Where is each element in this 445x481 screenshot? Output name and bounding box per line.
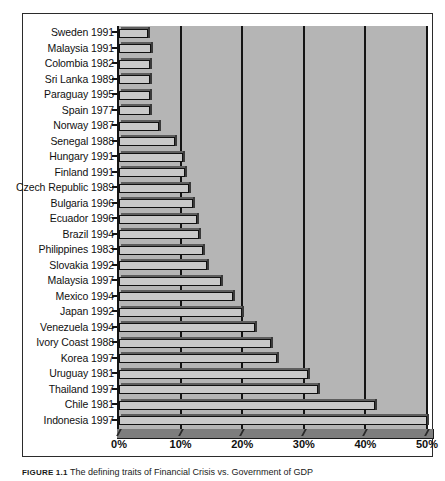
bar-side-face bbox=[151, 42, 153, 53]
bar bbox=[119, 122, 159, 131]
bar-side-face bbox=[203, 244, 205, 255]
bar-side-face bbox=[150, 89, 152, 100]
x-axis-tick-label: 20% bbox=[231, 438, 253, 450]
bar bbox=[119, 277, 221, 286]
category-label: Sri Lanka 1989 bbox=[0, 73, 114, 86]
bar-side-face bbox=[375, 399, 377, 410]
y-axis-tick bbox=[112, 248, 117, 250]
bar bbox=[119, 339, 271, 348]
bar-row: Ecuador 1996 bbox=[23, 212, 434, 226]
bar-row: Slovakia 1992 bbox=[23, 259, 434, 273]
x-axis-tick-label: 40% bbox=[354, 438, 376, 450]
bar-chart: Sweden 1991Malaysia 1991Colombia 1982Sri… bbox=[23, 14, 434, 458]
figure-caption-text: The defining traits of Financial Crisis … bbox=[70, 467, 313, 477]
bar-side-face bbox=[185, 166, 187, 177]
bar-side-face bbox=[207, 259, 209, 270]
category-label: Mexico 1994 bbox=[0, 290, 114, 303]
bar-row: Thailand 1997 bbox=[23, 383, 434, 397]
bar-row: Brazil 1994 bbox=[23, 228, 434, 242]
bar-front-face bbox=[119, 91, 150, 100]
y-axis-tick bbox=[112, 388, 117, 390]
bar bbox=[119, 91, 150, 100]
y-axis-tick bbox=[112, 419, 117, 421]
bar bbox=[119, 60, 150, 69]
bar-row: Sri Lanka 1989 bbox=[23, 73, 434, 87]
bar-row: Chile 1981 bbox=[23, 398, 434, 412]
category-label: Thailand 1997 bbox=[0, 383, 114, 396]
y-axis-tick bbox=[112, 78, 117, 80]
category-label: Malaysia 1997 bbox=[0, 274, 114, 287]
bar-front-face bbox=[119, 292, 233, 301]
bar bbox=[119, 137, 175, 146]
bar-row: Bulgaria 1996 bbox=[23, 197, 434, 211]
figure-caption: FIGURE 1.1 The defining traits of Financ… bbox=[22, 466, 437, 479]
bar-front-face bbox=[119, 29, 148, 38]
y-axis-tick bbox=[112, 186, 117, 188]
category-label: Malaysia 1991 bbox=[0, 42, 114, 55]
y-axis-tick bbox=[112, 124, 117, 126]
bar-front-face bbox=[119, 308, 242, 317]
bar-front-face bbox=[119, 230, 199, 239]
x-axis-tick-labels: 0%10%20%30%40%50% bbox=[23, 438, 434, 456]
bar-front-face bbox=[119, 168, 185, 177]
category-label: Hungary 1991 bbox=[0, 150, 114, 163]
figure-caption-id: FIGURE 1.1 bbox=[22, 468, 68, 477]
bar-row: Colombia 1982 bbox=[23, 57, 434, 71]
bar bbox=[119, 323, 255, 332]
bar-side-face bbox=[308, 368, 310, 379]
category-label: Spain 1977 bbox=[0, 104, 114, 117]
x-axis-tick-label: 0% bbox=[111, 438, 127, 450]
bar-front-face bbox=[119, 323, 255, 332]
bar-side-face bbox=[189, 182, 191, 193]
bar-front-face bbox=[119, 184, 189, 193]
bar-side-face bbox=[277, 352, 279, 363]
bar-row: Indonesia 1997 bbox=[23, 414, 434, 428]
bar bbox=[119, 354, 277, 363]
bar-side-face bbox=[175, 135, 177, 146]
bar-rows: Sweden 1991Malaysia 1991Colombia 1982Sri… bbox=[23, 26, 434, 429]
bar-row: Korea 1997 bbox=[23, 352, 434, 366]
bar-front-face bbox=[119, 75, 150, 84]
bar-front-face bbox=[119, 215, 197, 224]
bar-front-face bbox=[119, 153, 183, 162]
bar-front-face bbox=[119, 354, 277, 363]
bar bbox=[119, 106, 150, 115]
category-label: Indonesia 1997 bbox=[0, 414, 114, 427]
bar-side-face bbox=[318, 383, 320, 394]
bar-front-face bbox=[119, 261, 207, 270]
bar-side-face bbox=[242, 306, 244, 317]
y-axis-tick bbox=[112, 62, 117, 64]
y-axis-tick bbox=[112, 357, 117, 359]
bar bbox=[119, 385, 318, 394]
y-axis-tick bbox=[112, 47, 117, 49]
category-label: Slovakia 1992 bbox=[0, 259, 114, 272]
category-label: Venezuela 1994 bbox=[0, 321, 114, 334]
bar-row: Spain 1977 bbox=[23, 104, 434, 118]
bar-row: Ivory Coast 1988 bbox=[23, 336, 434, 350]
category-label: Ecuador 1996 bbox=[0, 212, 114, 225]
bar-front-face bbox=[119, 106, 150, 115]
bar-side-face bbox=[150, 58, 152, 69]
y-axis-tick bbox=[112, 295, 117, 297]
bar bbox=[119, 370, 308, 379]
bar bbox=[119, 75, 150, 84]
category-label: Philippines 1983 bbox=[0, 243, 114, 256]
y-axis-tick bbox=[112, 93, 117, 95]
bar bbox=[119, 261, 207, 270]
bar-row: Hungary 1991 bbox=[23, 150, 434, 164]
bar bbox=[119, 199, 193, 208]
bar-row: Czech Republic 1989 bbox=[23, 181, 434, 195]
bar-row: Sweden 1991 bbox=[23, 26, 434, 40]
bar-row: Uruguay 1981 bbox=[23, 367, 434, 381]
bar-front-face bbox=[119, 416, 427, 425]
bar-side-face bbox=[150, 73, 152, 84]
bar bbox=[119, 29, 148, 38]
bar-front-face bbox=[119, 122, 159, 131]
x-axis-tick-label: 10% bbox=[170, 438, 192, 450]
bar-row: Mexico 1994 bbox=[23, 290, 434, 304]
figure-frame: Sweden 1991Malaysia 1991Colombia 1982Sri… bbox=[22, 13, 433, 457]
category-label: Korea 1997 bbox=[0, 352, 114, 365]
category-label: Brazil 1994 bbox=[0, 228, 114, 241]
bar-side-face bbox=[221, 275, 223, 286]
bar-side-face bbox=[150, 104, 152, 115]
